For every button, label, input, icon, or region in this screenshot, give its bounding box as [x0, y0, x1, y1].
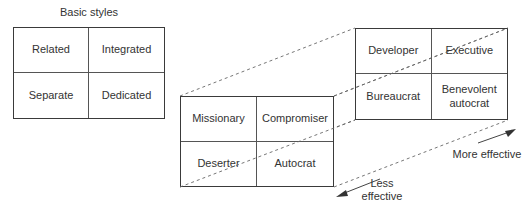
cell-separate: Separate [14, 73, 89, 118]
cell-dedicated: Dedicated [89, 73, 164, 118]
cell-developer: Developer [356, 29, 432, 74]
cell-missionary: Missionary [181, 97, 257, 142]
less-effective-label: Less effective [352, 177, 412, 203]
basic-styles-grid: Related Integrated Separate Dedicated [13, 27, 165, 119]
cell-compromiser: Compromiser [257, 97, 333, 142]
more-effective-label: More effective [452, 148, 522, 161]
cell-integrated: Integrated [89, 28, 164, 73]
cell-benevolent-autocrat: Benevolent autocrat [432, 74, 508, 119]
cell-related: Related [14, 28, 89, 73]
more-effective-styles-grid: Developer Executive Bureaucrat Benevolen… [355, 28, 508, 120]
cell-autocrat: Autocrat [257, 142, 333, 187]
more-effective-arrow-line [478, 131, 512, 143]
cell-deserter: Deserter [181, 142, 257, 187]
less-effective-styles-grid: Missionary Compromiser Deserter Autocrat [180, 96, 334, 187]
basic-styles-title: Basic styles [13, 6, 165, 18]
cell-executive: Executive [432, 29, 508, 74]
cell-bureaucrat: Bureaucrat [356, 74, 432, 119]
less-effective-arrowhead-icon [336, 190, 348, 197]
more-effective-arrowhead-icon [505, 129, 516, 137]
dashed-connector-top-left [180, 28, 355, 96]
